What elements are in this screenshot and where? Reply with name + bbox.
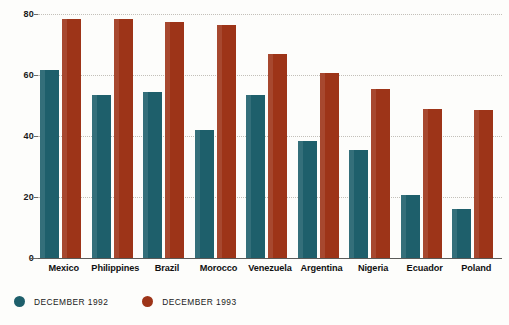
bar xyxy=(143,92,162,258)
bar xyxy=(62,19,81,258)
bar xyxy=(401,195,420,258)
bar-highlight xyxy=(423,109,428,258)
bar-highlight xyxy=(371,89,376,258)
bar-highlight xyxy=(246,95,251,258)
bar xyxy=(452,209,471,258)
bar xyxy=(246,95,265,258)
bar-highlight xyxy=(40,70,45,258)
legend-swatch-circle-icon xyxy=(142,296,153,307)
chart-legend: DECEMBER 1992DECEMBER 1993 xyxy=(14,296,271,307)
bar-highlight xyxy=(62,19,67,258)
y-axis-tick-label: 80 xyxy=(8,9,34,19)
y-axis: 806040200 xyxy=(0,0,34,325)
legend-entry: DECEMBER 1993 xyxy=(142,296,236,307)
bar xyxy=(474,110,493,258)
bar xyxy=(371,89,390,258)
legend-entry: DECEMBER 1992 xyxy=(14,296,108,307)
bar-group xyxy=(90,8,142,258)
bar-group xyxy=(244,8,296,258)
bar xyxy=(423,109,442,258)
x-axis-baseline xyxy=(30,258,502,259)
bar-highlight xyxy=(217,25,222,258)
y-axis-tick-mark xyxy=(34,136,38,137)
bar-chart: 806040200 MexicoPhilippinesBrazilMorocco… xyxy=(0,0,509,325)
bar-highlight xyxy=(401,195,406,258)
legend-swatch-circle-icon xyxy=(14,296,25,307)
y-axis-tick-label: 20 xyxy=(8,192,34,202)
bar-highlight xyxy=(320,73,325,258)
bar-highlight xyxy=(92,95,97,258)
y-axis-tick-mark xyxy=(34,197,38,198)
bar xyxy=(298,141,317,258)
bar xyxy=(320,73,339,258)
y-axis-tick-label: 40 xyxy=(8,131,34,141)
bar-highlight xyxy=(298,141,303,258)
bar xyxy=(40,70,59,258)
category-label: Poland xyxy=(446,263,506,273)
bar-highlight xyxy=(165,22,170,258)
bar xyxy=(114,19,133,258)
bar-highlight xyxy=(474,110,479,258)
legend-label: DECEMBER 1992 xyxy=(34,297,108,307)
bar-group xyxy=(399,8,451,258)
legend-label: DECEMBER 1993 xyxy=(162,297,236,307)
bar xyxy=(268,54,287,258)
y-axis-tick-mark xyxy=(34,258,38,259)
bar-highlight xyxy=(268,54,273,258)
bar-highlight xyxy=(143,92,148,258)
bar xyxy=(92,95,111,258)
bar xyxy=(195,130,214,258)
bar xyxy=(217,25,236,258)
plot-area xyxy=(38,8,502,258)
y-axis-tick-mark xyxy=(34,14,38,15)
y-axis-tick-mark xyxy=(34,75,38,76)
bar xyxy=(349,150,368,258)
bar-group xyxy=(141,8,193,258)
bar-highlight xyxy=(452,209,457,258)
bar-group xyxy=(347,8,399,258)
bar xyxy=(165,22,184,258)
bar-group xyxy=(450,8,502,258)
bar-group xyxy=(38,8,90,258)
bar-highlight xyxy=(195,130,200,258)
bar-group xyxy=(296,8,348,258)
bar-group xyxy=(193,8,245,258)
bar-highlight xyxy=(349,150,354,258)
y-axis-tick-label: 60 xyxy=(8,70,34,80)
bar-highlight xyxy=(114,19,119,258)
